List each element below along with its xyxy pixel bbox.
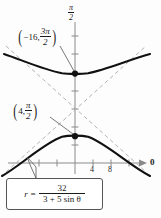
vertical-axis-label-numerator: π <box>68 4 74 12</box>
upper-vertex-leader-line <box>60 46 74 71</box>
lower-vertex-leader-line <box>50 117 73 134</box>
upper-branch-curve <box>4 54 150 74</box>
upper-vertex-point <box>72 71 78 77</box>
vertical-axis-label: π 2 <box>68 4 74 22</box>
x-tick-label-4: 4 <box>90 166 94 174</box>
equation-box: r = 32 3 + 5 sin θ <box>6 178 103 210</box>
upper-vertex-r-value: −16, <box>23 33 39 42</box>
equation-left-side: r = <box>24 189 36 199</box>
equation-numerator: 32 <box>39 183 85 193</box>
equation-leader-line-2 <box>27 157 36 178</box>
polar-axis-arrow <box>139 160 147 167</box>
polar-graph-figure: π 2 ( −16, 3π 2 ) ( 4, π 2 ) 4 8 0 r = 3… <box>0 0 161 218</box>
vertical-axis-label-denominator: 2 <box>68 12 74 22</box>
polar-axis-label: 0 <box>150 158 155 167</box>
lower-vertex-theta-value: π 2 <box>25 101 32 121</box>
equation-fraction: 32 3 + 5 sin θ <box>39 183 85 205</box>
upper-vertex-theta-value: 3π 2 <box>40 27 51 47</box>
equation-denominator: 3 + 5 sin θ <box>39 193 85 205</box>
lower-vertex-r-value: 4, <box>18 107 25 116</box>
upper-vertex-callout: ( −16, 3π 2 ) <box>17 27 57 47</box>
x-tick-label-8: 8 <box>108 166 112 174</box>
lower-vertex-callout: ( 4, π 2 ) <box>12 101 38 121</box>
